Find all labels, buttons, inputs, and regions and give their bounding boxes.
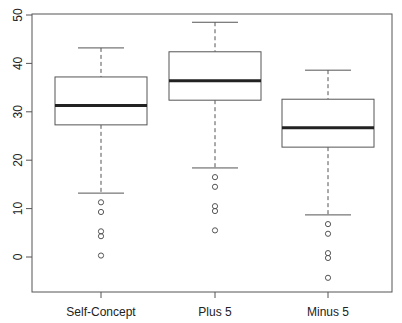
outlier-point <box>98 209 103 214</box>
outlier-point <box>98 200 103 205</box>
y-tick-label: 50 <box>11 8 25 22</box>
outlier-point <box>212 228 217 233</box>
y-tick-label: 20 <box>11 153 25 167</box>
outlier-point <box>98 253 103 258</box>
boxplot-chart: 01020304050Self-ConceptPlus 5Minus 5 <box>0 0 402 323</box>
outlier-point <box>212 184 217 189</box>
y-tick-label: 0 <box>11 253 25 260</box>
iqr-box <box>55 77 147 125</box>
x-tick-label: Self-Concept <box>66 305 136 319</box>
outlier-point <box>325 275 330 280</box>
y-tick-label: 10 <box>11 202 25 216</box>
iqr-box <box>282 99 374 147</box>
outlier-point <box>325 231 330 236</box>
outlier-point <box>325 221 330 226</box>
outlier-point <box>212 175 217 180</box>
y-tick-label: 40 <box>11 56 25 70</box>
x-tick-label: Plus 5 <box>198 305 232 319</box>
x-tick-label: Minus 5 <box>307 305 349 319</box>
iqr-box <box>169 52 261 100</box>
y-tick-label: 30 <box>11 105 25 119</box>
